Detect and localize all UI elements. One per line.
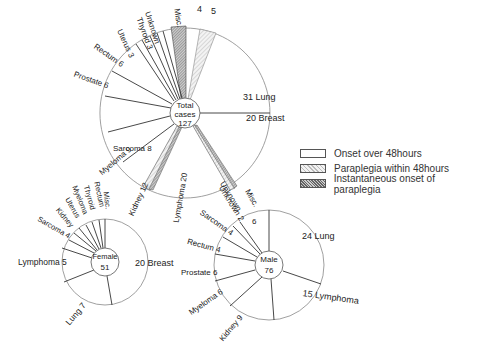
m-label-misc-value: 6 bbox=[252, 217, 257, 226]
label-rectum: Rectum 6 bbox=[92, 42, 126, 69]
m-label-sarcoma: Sarcoma 4 bbox=[198, 208, 235, 238]
f-label-lymphoma: Lymphoma 5 bbox=[18, 257, 67, 267]
label-misc-top: Misc. bbox=[172, 8, 184, 28]
total-center-label: Total bbox=[177, 101, 194, 110]
label-prostate: Prostate 6 bbox=[73, 70, 111, 91]
female-center-count: 51 bbox=[101, 263, 110, 272]
f-label-breast: 20 Breast bbox=[135, 258, 174, 268]
female-center-label: Female bbox=[92, 252, 117, 261]
light-stipple-swatch-icon bbox=[300, 164, 326, 173]
legend: Onset over 48hours Paraplegia within 48h… bbox=[300, 146, 483, 191]
total-center-label-2: cases bbox=[175, 110, 196, 119]
dark-hatch-swatch-icon bbox=[300, 179, 326, 188]
label-breast: 20 Breast bbox=[246, 113, 285, 123]
male-center-label: Male bbox=[260, 255, 278, 264]
legend-item-instantaneous: Instantaneous onset of paraplegia bbox=[300, 176, 483, 191]
m-label-kidney: Kidney 9 bbox=[218, 313, 245, 343]
f-label-lung: Lung 7 bbox=[63, 300, 88, 327]
female-chart: Female 51 20 Breast Lymphoma 5 Lung 7 Sa… bbox=[18, 181, 174, 327]
legend-label: Onset over 48hours bbox=[334, 148, 422, 159]
m-label-lung: 24 Lung bbox=[302, 231, 335, 241]
label-5: 5 bbox=[211, 6, 216, 16]
m-label-rectum: Rectum 4 bbox=[186, 237, 222, 255]
label-lung: 31 Lung bbox=[243, 92, 276, 102]
m-label-myeloma: Myeloma 6 bbox=[187, 287, 225, 317]
total-center-count: 127 bbox=[178, 119, 192, 128]
m-label-lymphoma: 15 Lymphoma bbox=[302, 288, 360, 306]
m-label-misc: Misc. bbox=[243, 188, 260, 209]
legend-item-onset-over-48h: Onset over 48hours bbox=[300, 146, 483, 161]
m-label-prostate: Prostate 6 bbox=[181, 268, 218, 277]
f-label-misc: Misc. bbox=[101, 191, 112, 210]
male-center-count: 76 bbox=[265, 266, 274, 275]
label-uterus: Uterus 3 bbox=[115, 28, 136, 60]
open-swatch-icon bbox=[300, 149, 326, 158]
label-kidney: Kidney 12 bbox=[127, 181, 150, 218]
label-4: 4 bbox=[197, 4, 202, 14]
male-chart: Male 76 24 Lung 15 Lymphoma Kidney 9 Mye… bbox=[181, 184, 360, 343]
lung-48h-wedge bbox=[188, 29, 216, 100]
legend-label: Instantaneous onset of paraplegia bbox=[334, 173, 483, 195]
unknown-wedge bbox=[193, 125, 235, 190]
